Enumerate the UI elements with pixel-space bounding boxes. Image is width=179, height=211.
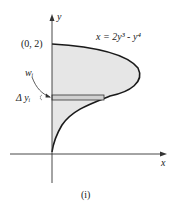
- figure-caption: (i): [81, 189, 90, 201]
- strip-rectangle: [52, 95, 104, 100]
- axis-y-label: y: [56, 11, 62, 22]
- equation-label: x = 2y³ - y⁴: [95, 31, 141, 42]
- point-label: (0, 2): [21, 38, 43, 50]
- diagram-canvas: y x (0, 2) x = 2y³ - y⁴ wᵢ Δ yᵢ (i): [0, 0, 179, 211]
- x-axis-arrow-icon: [160, 152, 167, 157]
- brace-icon: [40, 95, 42, 100]
- y-axis-arrow-icon: [50, 14, 55, 21]
- axis-x-label: x: [160, 157, 166, 168]
- strip-width-label: wᵢ: [25, 67, 34, 78]
- strip-height-label: Δ yᵢ: [15, 92, 31, 103]
- pointer-arrow: [32, 77, 50, 97]
- pointer-arrowhead-icon: [46, 94, 52, 98]
